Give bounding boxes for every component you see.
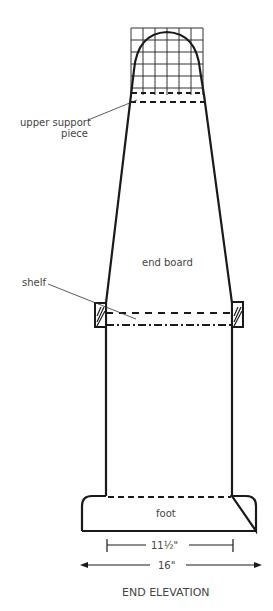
foot-label: foot [156, 508, 176, 519]
inner-width-label: 11½" [151, 540, 178, 551]
upper-support-label: upper support piece [20, 117, 88, 139]
end-elevation-drawing [0, 0, 273, 611]
end-board-label: end board [142, 257, 193, 268]
grid-pattern [131, 28, 203, 95]
drawing-title: END ELEVATION [122, 587, 210, 598]
shelf-leader [48, 284, 136, 319]
outer-width-label: 16" [158, 560, 175, 571]
shelf-label: shelf [22, 277, 46, 288]
right-cleat [232, 302, 243, 327]
